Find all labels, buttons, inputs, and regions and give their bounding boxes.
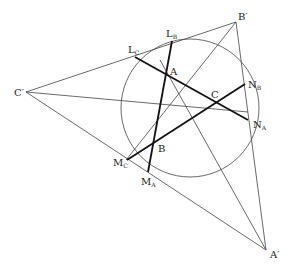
line-b-prime-a-prime xyxy=(236,22,266,250)
label-lc: LC xyxy=(128,44,140,56)
line-a-prime-c-prime xyxy=(26,92,266,250)
label-a-prime: A′ xyxy=(269,249,280,260)
label-lb: LB xyxy=(166,28,178,40)
segment-lc-na xyxy=(135,57,248,120)
label-b: B xyxy=(158,143,165,154)
label-c: C xyxy=(211,89,219,100)
label-na: NA xyxy=(253,119,267,131)
geometry-diagram: A B C A′ B′ C′ LB LC NB NA MC MA xyxy=(0,0,296,264)
label-mc: MC xyxy=(113,157,128,169)
label-c-prime: C′ xyxy=(14,87,25,98)
line-b-prime-m xyxy=(126,22,236,160)
label-b-prime: B′ xyxy=(238,11,248,22)
label-a: A xyxy=(169,66,178,77)
segment-mc-nb xyxy=(127,84,245,160)
circumcircle xyxy=(121,39,259,177)
line-c-prime-b-prime xyxy=(26,22,236,92)
label-ma: MA xyxy=(141,176,156,188)
label-nb: NB xyxy=(248,79,262,91)
